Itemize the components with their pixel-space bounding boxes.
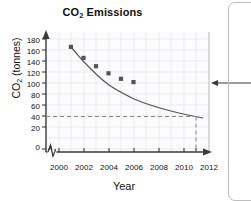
callout-arrow-head-icon xyxy=(211,80,218,86)
chart-canvas xyxy=(0,0,251,201)
chart-figure: CO2 Emissions CO2 (tonnes) Year 180 160 … xyxy=(0,0,251,201)
data-point xyxy=(119,77,123,81)
side-panel-border xyxy=(228,2,251,201)
data-point xyxy=(69,45,73,49)
data-point xyxy=(94,64,98,68)
data-point xyxy=(81,56,85,60)
data-point xyxy=(106,71,110,75)
data-point xyxy=(131,80,135,84)
